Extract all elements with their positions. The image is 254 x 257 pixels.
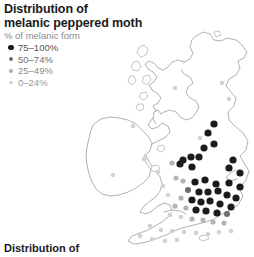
outer-hebrides-isle-mid [131,61,141,71]
legend: % of melanic form 75–100% 50–74% 25–49% … [4,31,80,88]
legend-dot-icon [9,69,13,73]
legend-label-25-49: 25–49% [18,65,53,77]
scotland-northwest-coast [145,60,184,114]
inner-hebrides-isle-islay [136,104,144,111]
legend-label-75-100: 75–100% [18,42,58,54]
legend-swatch-25-49 [4,69,18,73]
legend-label-0-24: 0–24% [18,77,48,89]
inner-hebrides-isle-skye [142,75,151,85]
title-line-2: melanic peppered moth [4,17,154,31]
legend-swatch-0-24 [4,81,18,84]
legend-heading: % of melanic form [4,31,80,41]
footer-caption: Distribution of [4,242,79,254]
legend-dot-icon [9,81,12,84]
legend-swatch-75-100 [4,45,18,50]
legend-dot-icon [9,57,13,61]
ireland-coastline [86,117,152,196]
title-line-1: Distribution of [4,3,154,17]
legend-label-50-74: 50–74% [18,54,53,66]
legend-dot-icon [8,45,13,50]
legend-item-50-74: 50–74% [4,54,80,66]
legend-item-25-49: 25–49% [4,65,80,77]
isle-of-wight [199,235,209,241]
legend-swatch-50-74 [4,57,18,61]
inner-hebrides-isle-mull [139,92,148,100]
orkney-isles [214,31,221,37]
legend-item-0-24: 0–24% [4,77,80,89]
moth-distribution-figure: Distribution of melanic peppered moth % … [0,0,254,257]
outer-hebrides-isle-north [137,45,148,57]
figure-title: Distribution of melanic peppered moth [4,3,154,30]
outer-hebrides-isle-south [128,76,136,85]
legend-item-75-100: 75–100% [4,42,80,54]
